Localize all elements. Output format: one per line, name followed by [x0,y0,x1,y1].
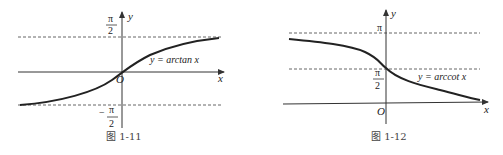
half-pi-denominator: 2 [375,80,380,91]
figure-caption: 图 1-12 [371,131,407,142]
x-axis-label: x [217,72,223,84]
lower-asymptote-sign: − [99,107,105,118]
arccot-graph: y x O π π 2 y = arccot x 图 1-12 [283,7,489,142]
arctan-graph: y x O π 2 y = arctan x − π 2 图 1-11 [18,10,224,142]
arccot-curve [289,39,480,100]
upper-asymptote-numerator: π [108,13,113,24]
figures-canvas: y x O π 2 y = arctan x − π 2 图 1-11 y x … [0,0,503,155]
upper-asymptote-denominator: 2 [108,25,113,36]
figure-caption: 图 1-11 [106,131,142,142]
pi-label: π [377,22,382,33]
arccot-curve-label: y = arccot x [417,71,467,82]
origin-label: O [116,73,124,85]
x-axis-label: x [483,103,489,115]
arctan-curve-label: y = arctan x [149,54,199,65]
y-axis-label: y [390,7,396,19]
lower-asymptote-numerator: π [109,104,114,115]
lower-asymptote-denominator: 2 [109,118,114,129]
half-pi-numerator: π [375,67,380,78]
y-axis-label: y [127,10,133,22]
origin-label: O [377,105,385,117]
